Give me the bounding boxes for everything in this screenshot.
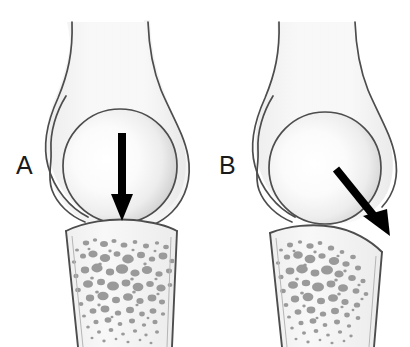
panel-a-lower-bone [66,219,177,347]
joint-loading-figure: A [0,0,410,347]
panel-a-arrow-shaft [118,133,126,195]
panel-b-label: B [219,151,236,179]
panel-b-lower-bone [270,225,382,347]
panel-b: B [219,22,396,347]
panel-a-label: A [16,151,33,179]
figure-root: A [0,0,410,347]
panel-a: A [16,20,189,347]
